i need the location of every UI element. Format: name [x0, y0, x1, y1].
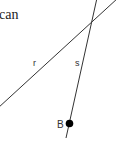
geometry-diagram: can r s B [0, 0, 116, 145]
text-fragment: can [0, 7, 18, 22]
line-r-label: r [33, 58, 36, 68]
point-b [66, 120, 74, 128]
line-s [66, 0, 97, 138]
line-s-label: s [75, 58, 80, 68]
point-b-label: B [57, 119, 64, 130]
